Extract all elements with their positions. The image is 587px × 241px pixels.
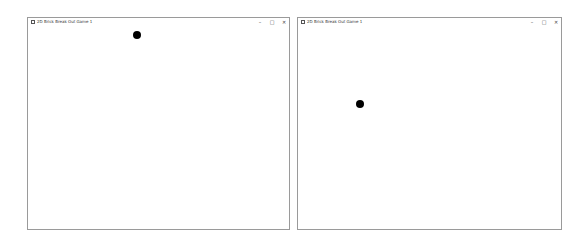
window-title: 2D Brick Break Out Game 1	[307, 19, 362, 25]
close-button[interactable]: ✕	[551, 18, 561, 27]
window-title: 2D Brick Break Out Game 1	[37, 19, 92, 25]
maximize-button[interactable]: □	[539, 18, 549, 27]
minimize-button[interactable]: –	[255, 18, 265, 27]
game-canvas[interactable]	[298, 27, 561, 229]
maximize-button[interactable]: □	[267, 18, 277, 27]
close-button[interactable]: ✕	[279, 18, 289, 27]
game-canvas[interactable]	[28, 27, 289, 229]
app-icon	[301, 20, 305, 24]
app-icon	[31, 20, 35, 24]
ball	[133, 31, 141, 39]
game-window-2[interactable]: 2D Brick Break Out Game 1 – □ ✕	[297, 17, 562, 230]
game-window-1[interactable]: 2D Brick Break Out Game 1 – □ ✕	[27, 17, 290, 230]
title-bar[interactable]: 2D Brick Break Out Game 1 – □ ✕	[298, 18, 561, 27]
title-bar[interactable]: 2D Brick Break Out Game 1 – □ ✕	[28, 18, 289, 27]
ball	[356, 100, 364, 108]
minimize-button[interactable]: –	[527, 18, 537, 27]
